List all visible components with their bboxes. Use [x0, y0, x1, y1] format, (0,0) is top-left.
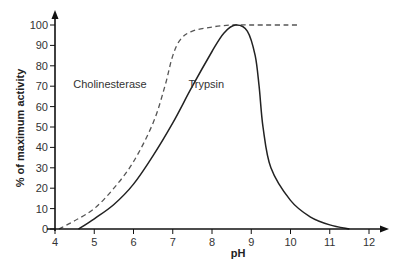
x-tick-label: 9 — [248, 236, 254, 248]
y-tick-label: 10 — [36, 203, 48, 215]
y-tick-label: 70 — [36, 80, 48, 92]
y-tick-label: 20 — [36, 182, 48, 194]
x-tick-label: 5 — [91, 236, 97, 248]
x-tick-label: 12 — [363, 236, 375, 248]
x-axis-title: pH — [231, 247, 246, 259]
y-tick-label: 40 — [36, 141, 48, 153]
series-labels: CholinesteraseTrypsin — [73, 78, 224, 90]
y-tick-label: 50 — [36, 121, 48, 133]
y-axis-arrow-icon — [52, 10, 59, 19]
series-label-trypsin: Trypsin — [188, 78, 224, 90]
series-label-cholinesterase: Cholinesterase — [73, 78, 146, 90]
y-tick-label: 60 — [36, 101, 48, 113]
x-tick-label: 6 — [130, 236, 136, 248]
x-tick-label: 10 — [284, 236, 296, 248]
x-tick-label: 8 — [209, 236, 215, 248]
x-axis-ticks: 456789101112 — [52, 229, 375, 248]
chart: 0102030405060708090100 456789101112 pH %… — [0, 0, 401, 271]
x-tick-label: 11 — [324, 236, 335, 248]
y-tick-label: 100 — [30, 19, 48, 31]
y-axis-title: % of maximum activity — [14, 68, 26, 187]
x-tick-label: 4 — [52, 236, 58, 248]
y-tick-label: 30 — [36, 162, 48, 174]
y-tick-label: 80 — [36, 60, 48, 72]
x-axis-arrow-icon — [380, 226, 389, 233]
x-tick-label: 7 — [170, 236, 176, 248]
y-axis-ticks: 0102030405060708090100 — [30, 19, 55, 235]
series-layer — [59, 25, 350, 229]
y-tick-label: 90 — [36, 39, 48, 51]
series-line-trypsin — [79, 25, 350, 229]
